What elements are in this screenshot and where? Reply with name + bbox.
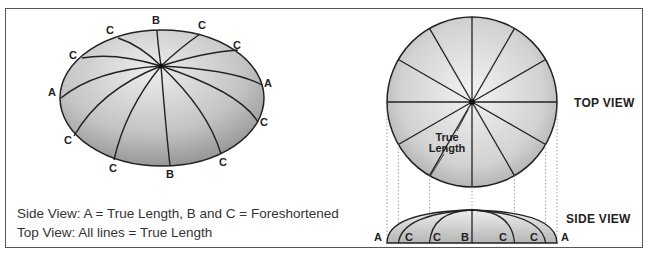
edge-label-a-left: A: [48, 86, 56, 98]
top-view-center: [469, 99, 475, 105]
side-label-c-4: C: [530, 231, 538, 243]
edge-label-c-tr1: C: [198, 19, 206, 31]
side-view-label: SIDE VIEW: [566, 212, 631, 226]
top-view-label: TOP VIEW: [574, 96, 635, 110]
side-label-c-3: C: [499, 231, 507, 243]
edge-label-c-br2: C: [219, 156, 227, 168]
top-view-circle: True Length: [387, 17, 557, 187]
caption-top-view: Top View: All lines = True Length: [17, 225, 212, 240]
side-label-a-left: A: [374, 231, 382, 243]
edge-label-c-tl2: C: [69, 49, 77, 61]
edge-label-c-bl2: C: [109, 162, 117, 174]
side-label-c-1: C: [405, 231, 413, 243]
side-label-a-right: A: [561, 231, 569, 243]
edge-label-c-br1: C: [260, 116, 268, 128]
edge-label-b-bottom: B: [166, 168, 174, 180]
edge-label-c-tr2: C: [233, 39, 241, 51]
true-length-label-2: Length: [429, 142, 466, 154]
edge-label-a-right: A: [264, 77, 272, 89]
dome-apex: [159, 64, 164, 69]
edge-label-b-top: B: [152, 14, 160, 26]
side-label-b: B: [461, 231, 469, 243]
side-label-c-2: C: [433, 231, 441, 243]
edge-label-c-bl1: C: [64, 134, 72, 146]
caption-side-view: Side View: A = True Length, B and C = Fo…: [17, 206, 339, 221]
edge-label-c-tl1: C: [106, 24, 114, 36]
